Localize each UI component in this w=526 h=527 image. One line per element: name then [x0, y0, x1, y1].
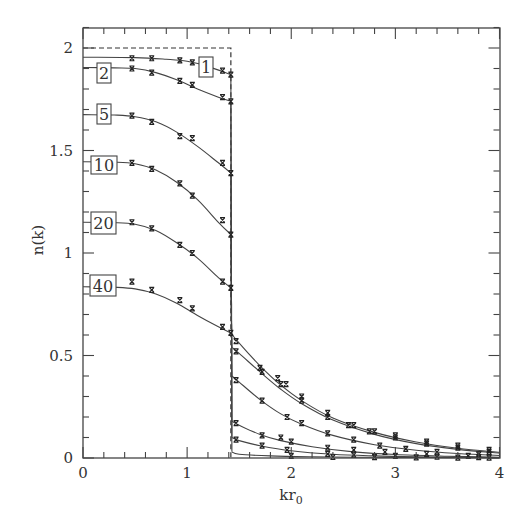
- x-tick-label: 2: [286, 464, 296, 482]
- data-point-marker: [149, 70, 154, 75]
- curve-above-kf: [232, 421, 500, 457]
- data-point-marker: [278, 435, 283, 440]
- points-2: [129, 66, 481, 460]
- data-point-marker: [234, 437, 239, 442]
- x-tick-label: 4: [495, 464, 505, 482]
- data-point-marker: [177, 298, 182, 303]
- curve-above-kf: [232, 347, 500, 453]
- y-tick-label: 1.5: [49, 142, 73, 160]
- x-tick-label: 3: [391, 464, 401, 482]
- data-point-marker: [220, 279, 225, 284]
- y-tick-label: 1: [63, 244, 73, 262]
- label-text: 10: [94, 156, 114, 175]
- fit-curves: [83, 57, 500, 458]
- data-point-marker: [234, 378, 239, 383]
- label-text: 40: [93, 277, 113, 296]
- data-point-marker: [149, 287, 154, 292]
- points-5: [129, 113, 470, 458]
- label-text: 1: [201, 58, 211, 77]
- series-label-5: 5: [97, 104, 111, 124]
- label-text: 2: [99, 64, 109, 83]
- curve-20: [83, 222, 500, 453]
- data-point-marker: [190, 306, 195, 311]
- points-1: [129, 56, 491, 460]
- series-label-40: 40: [90, 275, 116, 296]
- data-point-marker: [190, 136, 195, 141]
- data-point-marker: [190, 193, 195, 198]
- curve-40: [83, 287, 500, 453]
- y-tick-label: 0.5: [49, 347, 73, 365]
- points-20: [129, 220, 491, 455]
- data-point-marker: [129, 279, 134, 284]
- x-tick-label: 1: [182, 464, 192, 482]
- data-point-marker: [220, 160, 225, 165]
- x-axis-label: kr0: [279, 486, 302, 507]
- data-point-marker: [284, 382, 289, 387]
- curve-2: [83, 68, 500, 458]
- data-point-marker: [177, 242, 182, 247]
- data-point-marker: [234, 349, 239, 354]
- series-labels: 125102040: [90, 57, 213, 296]
- data-points: [129, 56, 491, 460]
- series-label-1: 1: [199, 57, 213, 77]
- x-tick-label: 0: [78, 464, 88, 482]
- curve-10: [83, 162, 500, 456]
- chart: 125102040 0123400.511.52 kr0 n(k): [0, 0, 526, 527]
- curve-above-kf: [231, 333, 500, 452]
- series-label-20: 20: [91, 212, 116, 234]
- data-point-marker: [220, 218, 225, 223]
- label-text: 20: [93, 214, 113, 233]
- data-point-marker: [129, 56, 134, 61]
- y-tick-label: 2: [63, 39, 73, 57]
- data-point-marker: [260, 398, 265, 403]
- data-point-marker: [351, 437, 356, 442]
- series-label-10: 10: [91, 156, 117, 175]
- points-10: [129, 160, 481, 457]
- points-40: [129, 279, 491, 452]
- data-point-marker: [275, 376, 280, 381]
- curve-1: [83, 57, 500, 458]
- series-label-2: 2: [97, 63, 111, 83]
- label-text: 5: [99, 105, 109, 124]
- tick-labels: 0123400.511.52: [49, 39, 504, 482]
- y-tick-label: 0: [63, 449, 73, 467]
- y-axis-label: n(k): [29, 225, 47, 255]
